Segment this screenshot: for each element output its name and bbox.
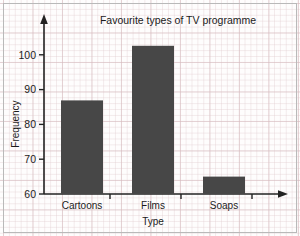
y-axis	[40, 14, 48, 194]
y-tick-label-60: 60	[24, 188, 36, 200]
chart-svg: Favourite types of TV programme 60	[0, 0, 300, 236]
x-tick-label-soaps: Soaps	[210, 200, 238, 211]
y-axis-arrow-icon	[40, 14, 48, 24]
y-axis-title: Frequency	[10, 100, 21, 147]
x-tick-label-cartoons: Cartoons	[62, 200, 103, 211]
chart-title: Favourite types of TV programme	[100, 14, 256, 26]
bar-films[interactable]	[132, 46, 174, 194]
y-tick-label-100: 100	[18, 49, 36, 61]
x-axis-title: Type	[142, 216, 164, 227]
y-tick-label-90: 90	[24, 83, 36, 95]
graph-paper-sheet: Favourite types of TV programme 60	[0, 0, 300, 236]
x-axis-arrow-icon	[278, 190, 288, 198]
y-tick-label-70: 70	[24, 153, 36, 165]
bar-soaps[interactable]	[203, 177, 245, 194]
x-tick-label-films: Films	[141, 200, 165, 211]
y-tick-label-80: 80	[24, 118, 36, 130]
bar-cartoons[interactable]	[61, 100, 103, 194]
bar-chart: Favourite types of TV programme 60	[0, 0, 300, 236]
